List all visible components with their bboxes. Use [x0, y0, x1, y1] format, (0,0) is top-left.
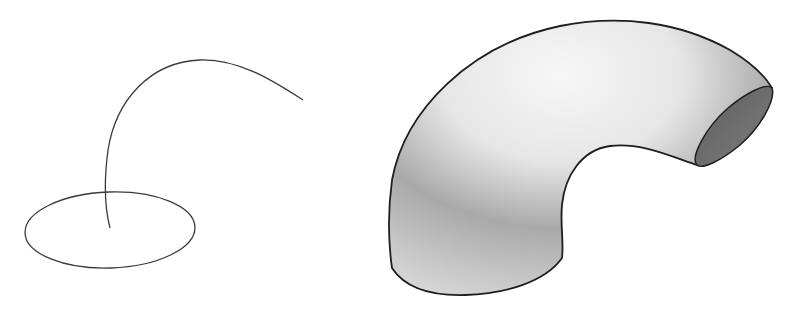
- sweep-diagram: [0, 0, 803, 315]
- result-panel: [389, 21, 773, 295]
- sweep-path-curve: [105, 60, 303, 228]
- input-panel: [24, 60, 303, 271]
- profile-circle: [24, 189, 197, 271]
